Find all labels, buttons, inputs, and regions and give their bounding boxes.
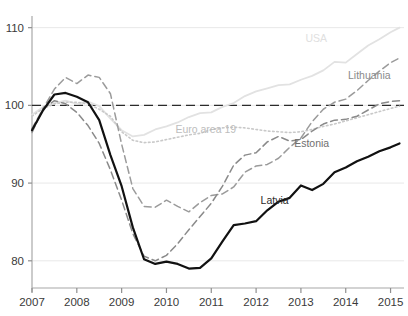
x-tick-label-2008: 2008 (64, 296, 90, 308)
chart-canvas: 8090100110 20072008200920102011201220132… (0, 0, 408, 316)
series-label-lithuania: Lithuania (348, 69, 391, 81)
x-tick-label-2014: 2014 (333, 296, 359, 308)
y-tick-label-80: 80 (11, 255, 24, 267)
series-label-usa: USA (305, 32, 327, 44)
x-tick-label-2013: 2013 (288, 296, 314, 308)
x-axis: 200720082009201020112012201320142015 (19, 288, 404, 308)
x-tick-label-2015: 2015 (378, 296, 404, 308)
y-axis: 8090100110 (5, 16, 32, 292)
data-series (32, 28, 400, 269)
x-tick-label-2009: 2009 (109, 296, 135, 308)
series-labels: LatviaEstoniaLithuaniaEuro area 19USA (175, 32, 390, 206)
x-tick-label-2007: 2007 (19, 296, 45, 308)
x-tick-label-2011: 2011 (199, 296, 224, 308)
y-tick-label-90: 90 (11, 177, 24, 189)
series-label-latvia: Latvia (261, 194, 289, 206)
x-tick-label-2010: 2010 (154, 296, 180, 308)
series-line-lithuania (32, 58, 400, 212)
x-tick-label-2012: 2012 (243, 296, 269, 308)
grid-lines (32, 28, 404, 261)
y-tick-label-100: 100 (5, 99, 24, 111)
series-label-euro-area-19: Euro area 19 (175, 123, 236, 135)
series-label-estonia: Estonia (294, 137, 329, 149)
line-chart: 8090100110 20072008200920102011201220132… (0, 0, 408, 316)
y-tick-label-110: 110 (6, 22, 24, 34)
